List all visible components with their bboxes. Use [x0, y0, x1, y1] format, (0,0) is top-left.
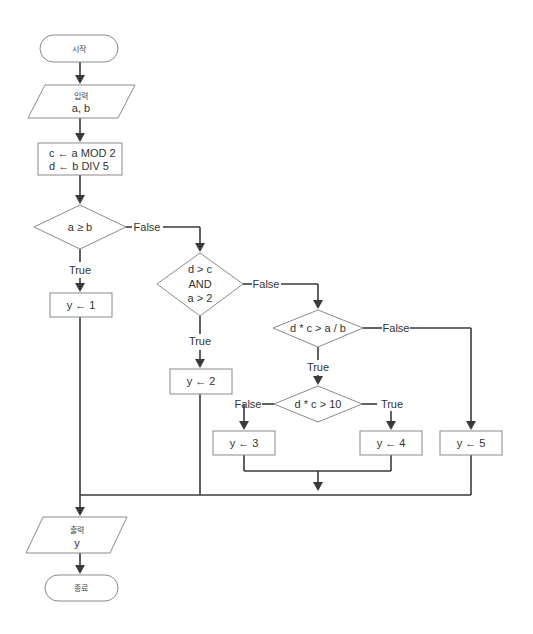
- input-title: 입력: [74, 91, 88, 101]
- assign-y5-box: y ← 5: [440, 431, 502, 455]
- end-terminal: 종료: [45, 575, 118, 601]
- decision2-true-label: True: [189, 335, 211, 347]
- decision4-false-label: False: [235, 398, 262, 410]
- decision1-true-label: True: [69, 264, 91, 276]
- output-parallelogram: 출력 y: [26, 517, 127, 553]
- assign5-label: y ← 5: [457, 437, 486, 449]
- output-title: 출력: [70, 525, 84, 535]
- input-vars: a, b: [72, 102, 90, 114]
- decision1-false-label: False: [134, 221, 161, 233]
- decision-a-ge-b: a ≥ b: [34, 205, 126, 249]
- assign3-label: y ← 3: [230, 437, 259, 449]
- assign-y3-box: y ← 3: [213, 431, 275, 455]
- start-label: 시작: [72, 44, 87, 54]
- decision1-condition: a ≥ b: [68, 221, 92, 233]
- decision-dc-gt-10: d * c > 10: [274, 386, 362, 422]
- start-terminal: 시작: [40, 35, 118, 62]
- decision2-line1: d > c: [188, 263, 213, 275]
- flowchart: 시작 입력 a, b c ← a MOD 2 d ← b DIV 5 a ≥ b…: [0, 0, 533, 634]
- assign-y4-box: y ← 4: [360, 431, 422, 455]
- process-line1: c ← a MOD 2: [49, 147, 116, 159]
- decision3-condition: d * c > a / b: [290, 322, 346, 334]
- decision-d-gt-c-and-a-gt-2: d > c AND a > 2: [157, 253, 243, 316]
- decision2-line2: AND: [188, 278, 211, 290]
- decision4-true-label: True: [381, 398, 403, 410]
- assign1-label: y ← 1: [67, 299, 96, 311]
- decision2-line3: a > 2: [188, 292, 213, 304]
- assign-y1-box: y ← 1: [50, 293, 112, 317]
- decision3-false-label: False: [383, 322, 410, 334]
- process-line2: d ← b DIV 5: [49, 160, 109, 172]
- input-parallelogram: 입력 a, b: [28, 85, 135, 118]
- decision4-condition: d * c > 10: [295, 398, 342, 410]
- output-vars: y: [74, 537, 80, 549]
- decision3-true-label: True: [307, 361, 329, 373]
- connectors: [75, 62, 476, 574]
- end-label: 종료: [74, 584, 88, 593]
- process-box: c ← a MOD 2 d ← b DIV 5: [38, 143, 122, 175]
- assign-y2-box: y ← 2: [170, 369, 232, 394]
- decision2-false-label: False: [253, 278, 280, 290]
- assign4-label: y ← 4: [377, 437, 406, 449]
- decision-dc-gt-a-div-b: d * c > a / b: [273, 310, 363, 347]
- assign2-label: y ← 2: [187, 375, 216, 387]
